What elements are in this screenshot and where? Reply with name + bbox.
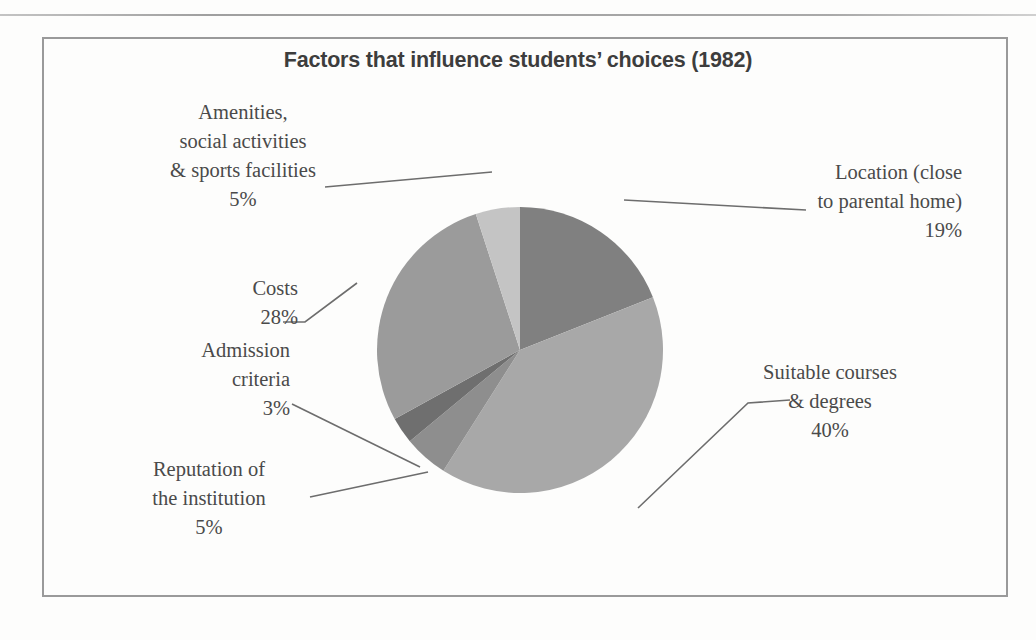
pie-label-location-line1: Location (close bbox=[730, 158, 962, 187]
pie-label-costs: Costs 28% bbox=[180, 274, 298, 332]
pie-label-location-percent: 19% bbox=[730, 216, 962, 245]
pie-label-location-line2: to parental home) bbox=[730, 187, 962, 216]
pie-label-reputation-line2: the institution bbox=[110, 484, 308, 513]
pie-label-costs-line1: Costs bbox=[180, 274, 298, 303]
pie-label-reputation: Reputation of the institution 5% bbox=[110, 455, 308, 542]
top-horizontal-rule bbox=[0, 14, 1036, 16]
pie-label-reputation-line1: Reputation of bbox=[110, 455, 308, 484]
pie-label-amenities-line3: & sports facilities bbox=[128, 156, 358, 185]
pie-label-courses-percent: 40% bbox=[735, 416, 925, 445]
pie-label-reputation-percent: 5% bbox=[110, 513, 308, 542]
pie-label-admission-line1: Admission bbox=[120, 336, 290, 365]
pie-label-amenities-line1: Amenities, bbox=[128, 98, 358, 127]
pie-label-amenities: Amenities, social activities & sports fa… bbox=[128, 98, 358, 214]
pie-label-admission-criteria: Admission criteria 3% bbox=[120, 336, 290, 423]
chart-title: Factors that influence students’ choices… bbox=[0, 48, 1036, 73]
pie-label-amenities-percent: 5% bbox=[128, 185, 358, 214]
page-background: Factors that influence students’ choices… bbox=[0, 0, 1036, 640]
pie-label-amenities-line2: social activities bbox=[128, 127, 358, 156]
pie-label-admission-line2: criteria bbox=[120, 365, 290, 394]
pie-label-courses-line1: Suitable courses bbox=[735, 358, 925, 387]
pie-label-suitable-courses: Suitable courses & degrees 40% bbox=[735, 358, 925, 445]
pie-label-courses-line2: & degrees bbox=[735, 387, 925, 416]
pie-label-costs-percent: 28% bbox=[180, 303, 298, 332]
pie-label-admission-percent: 3% bbox=[120, 394, 290, 423]
pie-label-location: Location (close to parental home) 19% bbox=[730, 158, 962, 245]
